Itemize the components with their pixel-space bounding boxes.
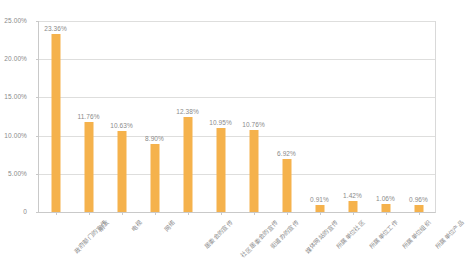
bar-value-label: 10.95%	[209, 119, 232, 126]
bar-value-label: 0.96%	[409, 196, 428, 203]
bar-value-label: 11.76%	[77, 113, 99, 120]
y-axis-tick-label: 0	[23, 208, 27, 215]
bar-group: 8.90%	[138, 21, 171, 212]
bar-value-label: 1.06%	[376, 195, 395, 202]
bar[interactable]	[414, 205, 423, 212]
bar-group: 12.38%	[171, 21, 204, 212]
bar[interactable]	[348, 201, 357, 212]
bar[interactable]	[249, 130, 258, 212]
bar-group: 6.92%	[270, 21, 303, 212]
bar[interactable]	[315, 205, 324, 212]
bar[interactable]	[51, 34, 60, 212]
x-axis-tick-label: 媒体网站的宣传	[302, 218, 339, 255]
x-axis-label-group: 政府部门的宣传朋友电视网络居委会的宣传社区居委会的宣传街道办的宣传媒体网站的宣传…	[38, 213, 436, 274]
bar[interactable]	[183, 117, 192, 212]
y-axis-tick-label: 10.00%	[4, 132, 27, 139]
x-axis-tick-label: 所属单位组织	[399, 218, 432, 251]
y-axis-tick-label: 5.00%	[8, 170, 27, 177]
y-axis-tick-label: 15.00%	[4, 93, 27, 100]
bar-group: 10.95%	[204, 21, 237, 212]
bar-group: 10.76%	[237, 21, 270, 212]
bar[interactable]	[381, 204, 390, 212]
x-axis-tick-label: 所属单位产品	[432, 218, 465, 251]
y-axis-tick-label: 20.00%	[4, 55, 27, 62]
bar-group: 11.76%	[72, 21, 105, 212]
bar-value-label: 1.42%	[343, 192, 362, 199]
bar-group: 23.36%	[39, 21, 72, 212]
x-axis-tick-label: 网络	[161, 218, 176, 233]
bar[interactable]	[117, 131, 126, 212]
bar[interactable]	[216, 128, 225, 212]
x-axis-tick-label: 所属单位工作	[366, 218, 399, 251]
bar-value-label: 8.90%	[145, 135, 164, 142]
bar-group: 10.63%	[105, 21, 138, 212]
bar-group: 1.42%	[336, 21, 369, 212]
bar-value-label: 10.63%	[110, 122, 133, 129]
bar[interactable]	[150, 144, 159, 212]
bar-group: 0.91%	[303, 21, 336, 212]
bar-group: 0.96%	[402, 21, 435, 212]
bar[interactable]	[84, 122, 93, 212]
bar-value-label: 10.76%	[242, 121, 265, 128]
x-axis-tick-label: 电视	[128, 218, 143, 233]
bar-value-label: 6.92%	[277, 150, 296, 157]
bar-value-label: 0.91%	[310, 196, 329, 203]
bar-value-label: 23.36%	[44, 25, 67, 32]
x-axis-tick-label: 居委会的宣传	[201, 218, 234, 251]
bar-value-label: 12.38%	[176, 108, 199, 115]
bar[interactable]	[282, 159, 291, 212]
plot-area: 05.00%10.00%15.00%20.00%25.00%23.36%11.7…	[38, 21, 436, 213]
y-axis-tick-label: 25.00%	[4, 17, 27, 24]
bar-group: 1.06%	[369, 21, 402, 212]
